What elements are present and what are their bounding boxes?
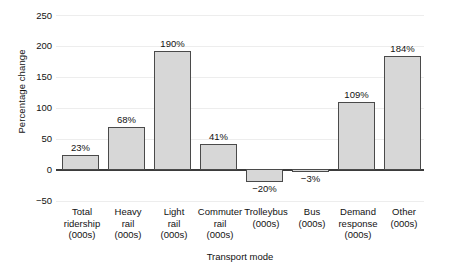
cat-line-1: Other xyxy=(372,206,436,218)
bar-total-ridership[interactable] xyxy=(62,155,99,170)
y-tick-50: 50 xyxy=(18,134,52,144)
bar-demand-response[interactable] xyxy=(338,102,375,170)
y-tick-minus50: −50 xyxy=(18,196,52,206)
bar-value-label-bus: −3% xyxy=(285,174,336,184)
cat-line-3: (000s) xyxy=(188,229,252,241)
y-tick-200: 200 xyxy=(18,41,52,51)
bar-trolleybus[interactable] xyxy=(246,169,283,182)
y-tick-100: 100 xyxy=(18,103,52,113)
cat-line-2: (000s) xyxy=(372,218,436,230)
bar-value-label-trolleybus: −20% xyxy=(239,184,290,194)
y-axis-tick-labels: 250 200 150 100 50 0 −50 xyxy=(14,0,52,273)
y-tick-150: 150 xyxy=(18,72,52,82)
bar-other[interactable] xyxy=(384,56,421,170)
gridline-150 xyxy=(56,77,424,78)
cat-line-3: (000s) xyxy=(326,229,390,241)
x-axis-title: Transport mode xyxy=(56,251,424,262)
bar-value-label-light-rail: 190% xyxy=(147,39,198,49)
gridline-250 xyxy=(56,15,424,16)
bar-value-label-demand-response: 109% xyxy=(331,90,382,100)
bar-value-label-other: 184% xyxy=(377,44,428,54)
x-axis-category-labels: Total ridership (000s) Heavy rail (000s)… xyxy=(56,206,424,252)
plot-area: 23% 68% 190% 41% −20% −3% 109% 184% xyxy=(56,12,424,204)
bar-value-label-commuter-rail: 41% xyxy=(193,132,244,142)
bar-bus[interactable] xyxy=(292,169,329,172)
bar-commuter-rail[interactable] xyxy=(200,144,237,170)
y-tick-250: 250 xyxy=(18,11,52,21)
bar-heavy-rail[interactable] xyxy=(108,127,145,170)
cat-label-other: Other (000s) xyxy=(372,206,436,229)
bar-value-label-total-ridership: 23% xyxy=(55,143,106,153)
gridline-200 xyxy=(56,46,424,47)
bar-light-rail[interactable] xyxy=(154,51,191,170)
gridline-minus50 xyxy=(56,201,424,202)
bar-value-label-heavy-rail: 68% xyxy=(101,115,152,125)
bar-chart: Percentage change 250 200 150 100 50 0 −… xyxy=(0,0,455,273)
y-tick-0: 0 xyxy=(18,165,52,175)
